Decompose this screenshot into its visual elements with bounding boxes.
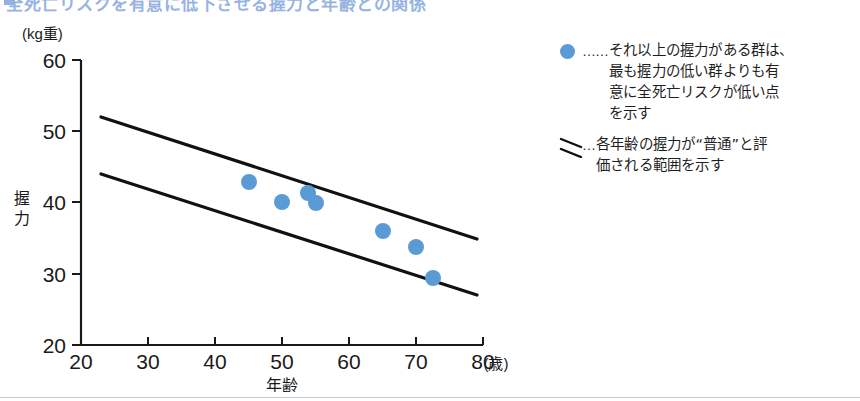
- figure-bottom-rule: [0, 397, 860, 398]
- data-point[interactable]: [425, 270, 441, 286]
- y-tick-marks: [72, 60, 81, 345]
- x-tick-labels: 20 30 40 50 60 70 80: [69, 350, 494, 373]
- svg-text:20: 20: [69, 350, 92, 373]
- svg-text:50: 50: [270, 350, 293, 373]
- legend-leader-dots-2: …: [582, 134, 596, 156]
- svg-text:20: 20: [43, 334, 66, 357]
- legend-double-line-icon: [558, 134, 582, 156]
- svg-text:30: 30: [136, 350, 159, 373]
- legend-line: 価される範囲を示す: [596, 155, 768, 176]
- svg-text:50: 50: [43, 120, 66, 143]
- legend-item-dot: …… それ以上の握力がある群は、 最も握力の低い群よりも有 意に全死亡リスクが低…: [558, 40, 858, 124]
- chart-area: (kg重) 60 50 40 30 20 握 力: [0, 12, 540, 401]
- double-line-glyph: [558, 136, 584, 158]
- chart-legend: …… それ以上の握力がある群は、 最も握力の低い群よりも有 意に全死亡リスクが低…: [558, 40, 858, 186]
- data-point[interactable]: [241, 174, 257, 190]
- data-point[interactable]: [408, 239, 424, 255]
- svg-text:60: 60: [337, 350, 360, 373]
- data-point[interactable]: [375, 223, 391, 239]
- svg-text:60: 60: [43, 49, 66, 72]
- svg-text:握: 握: [14, 190, 30, 207]
- page-title: 全死亡リスクを有意に低下させる握力と年齢との関係: [6, 0, 426, 12]
- band-lower-line: [101, 174, 477, 295]
- legend-line: 各年齢の握力が“普通”と評: [596, 134, 768, 155]
- svg-text:力: 力: [14, 210, 30, 227]
- legend-line: それ以上の握力がある群は、: [609, 40, 794, 61]
- figure-title-strip: 全死亡リスクを有意に低下させる握力と年齢との関係: [0, 0, 860, 12]
- legend-line: を示す: [609, 103, 794, 124]
- legend-item-band: … 各年齢の握力が“普通”と評 価される範囲を示す: [558, 134, 858, 176]
- data-point[interactable]: [274, 194, 290, 210]
- svg-text:70: 70: [404, 350, 427, 373]
- legend-text-dot: それ以上の握力がある群は、 最も握力の低い群よりも有 意に全死亡リスクが低い点 …: [609, 40, 794, 124]
- legend-text-band: 各年齢の握力が“普通”と評 価される範囲を示す: [596, 134, 768, 176]
- svg-text:30: 30: [43, 263, 66, 286]
- legend-line: 最も握力の低い群よりも有: [609, 61, 794, 82]
- x-tick-marks: [81, 337, 483, 345]
- data-point[interactable]: [308, 195, 324, 211]
- legend-dot-icon: [558, 40, 582, 62]
- legend-leader-dots-1: ……: [582, 40, 609, 62]
- band-upper-line: [101, 117, 477, 239]
- svg-text:40: 40: [43, 191, 66, 214]
- y-tick-labels: 60 50 40 30 20: [43, 49, 66, 357]
- x-unit-label: (歳): [484, 355, 509, 372]
- figure-root: 全死亡リスクを有意に低下させる握力と年齢との関係 (kg重) 60 50 40 …: [0, 0, 860, 401]
- x-axis-title: 年齢: [266, 377, 298, 392]
- legend-line: 意に全死亡リスクが低い点: [609, 82, 794, 103]
- svg-text:40: 40: [203, 350, 226, 373]
- y-axis-title: 握 力: [14, 190, 30, 227]
- scatter-plot: (kg重) 60 50 40 30 20 握 力: [0, 12, 540, 392]
- y-unit-label: (kg重): [22, 25, 63, 42]
